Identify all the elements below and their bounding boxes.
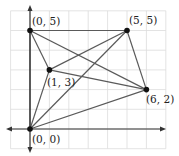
x-axis-left-arrow-icon <box>6 127 12 132</box>
y-axis-down-arrow-icon <box>28 147 33 153</box>
label-point-6-2: (6, 2) <box>146 93 174 105</box>
y-axis-up-arrow-icon <box>28 5 33 11</box>
label-point-0-5: (0, 5) <box>32 15 60 27</box>
point-1-3 <box>47 67 53 73</box>
label-point-5-5: (5, 5) <box>129 14 157 26</box>
x-axis-right-arrow-icon <box>160 127 166 132</box>
coordinate-diagram: (0, 5) (5, 5) (1, 3) (6, 2) (0, 0) <box>0 0 179 156</box>
point-6-2 <box>144 87 150 93</box>
edge-O-B <box>30 31 127 130</box>
labels: (0, 5) (5, 5) (1, 3) (6, 2) (0, 0) <box>32 14 174 145</box>
point-0-0 <box>27 126 33 132</box>
label-point-0-0: (0, 0) <box>32 133 60 145</box>
point-0-5 <box>27 28 33 34</box>
label-point-1-3: (1, 3) <box>47 76 75 88</box>
point-5-5 <box>124 28 130 34</box>
